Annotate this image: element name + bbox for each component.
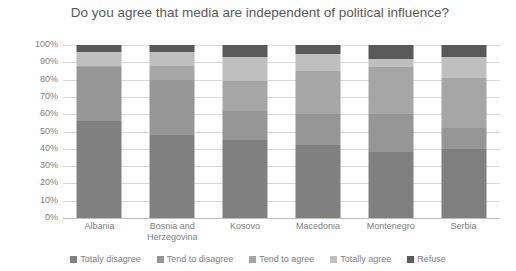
bar-stack[interactable] <box>441 45 486 218</box>
bar-segment[interactable] <box>223 45 268 57</box>
chart-legend: Totaly disagreeTend to disagreeTend to a… <box>0 252 516 266</box>
bar-segment[interactable] <box>368 59 413 68</box>
bar-stack[interactable] <box>150 45 195 218</box>
bar-segment[interactable] <box>223 111 268 140</box>
bar-segment[interactable] <box>150 66 195 80</box>
y-axis-tick-label: 60% <box>12 109 58 118</box>
bar-segment[interactable] <box>368 45 413 59</box>
y-axis-tick-label: 40% <box>12 144 58 153</box>
bar-stack[interactable] <box>368 45 413 218</box>
bar-segment[interactable] <box>295 54 340 71</box>
y-axis-tick-label: 20% <box>12 178 58 187</box>
x-axis: AlbaniaBosnia and HerzegovinaKosovoMaced… <box>63 221 500 249</box>
legend-item[interactable]: Refuse <box>407 254 446 264</box>
bar-segment[interactable] <box>150 135 195 218</box>
legend-item[interactable]: Tend to disagree <box>157 254 234 264</box>
x-axis-tick-label: Montenegro <box>354 221 427 232</box>
legend-swatch-icon <box>407 256 414 263</box>
bar-segment[interactable] <box>368 67 413 114</box>
legend-label: Totally agree <box>340 254 391 264</box>
bar-segment[interactable] <box>150 45 195 52</box>
chart-title: Do you agree that media are independent … <box>60 4 460 21</box>
y-axis-tick-label: 30% <box>12 161 58 170</box>
bar-segment[interactable] <box>441 128 486 149</box>
y-axis-tick-label: 90% <box>12 57 58 66</box>
stacked-bar-chart: Do you agree that media are independent … <box>0 0 516 271</box>
bar-segment[interactable] <box>150 52 195 66</box>
bar-segment[interactable] <box>77 121 122 218</box>
legend-swatch-icon <box>70 256 77 263</box>
bar-segment[interactable] <box>441 45 486 57</box>
y-axis: 100%90%80%70%60%50%40%30%20%10%0% <box>8 45 58 218</box>
bar-segment[interactable] <box>295 71 340 114</box>
x-axis-tick-label: Albania <box>63 221 136 232</box>
bar-segment[interactable] <box>77 66 122 68</box>
bar-stack[interactable] <box>295 45 340 218</box>
legend-swatch-icon <box>157 256 164 263</box>
bar-segment[interactable] <box>223 140 268 218</box>
bar-segment[interactable] <box>223 81 268 110</box>
bar-segment[interactable] <box>295 145 340 218</box>
bar-group <box>427 45 500 218</box>
bar-segment[interactable] <box>441 57 486 78</box>
x-axis-tick-label: Bosnia and Herzegovina <box>136 221 209 243</box>
bar-segment[interactable] <box>77 52 122 66</box>
bar-group <box>63 45 136 218</box>
bar-stack[interactable] <box>77 45 122 218</box>
legend-item[interactable]: Totally agree <box>330 254 391 264</box>
legend-label: Refuse <box>417 254 446 264</box>
legend-item[interactable]: Totaly disagree <box>70 254 141 264</box>
bar-segment[interactable] <box>368 152 413 218</box>
gridline <box>63 218 500 219</box>
y-axis-tick-label: 50% <box>12 127 58 136</box>
bar-segment[interactable] <box>441 149 486 218</box>
bar-segment[interactable] <box>441 78 486 128</box>
bar-stack[interactable] <box>223 45 268 218</box>
y-axis-tick-label: 80% <box>12 75 58 84</box>
plot-area <box>63 45 500 218</box>
bar-group <box>282 45 355 218</box>
legend-label: Tend to agree <box>259 254 314 264</box>
legend-label: Tend to disagree <box>167 254 234 264</box>
bar-segment[interactable] <box>223 57 268 81</box>
bar-segment[interactable] <box>368 114 413 152</box>
x-axis-tick-label: Kosovo <box>209 221 282 232</box>
bar-group <box>136 45 209 218</box>
bar-group <box>209 45 282 218</box>
y-axis-tick-label: 0% <box>12 213 58 222</box>
bar-segment[interactable] <box>150 80 195 135</box>
bar-segment[interactable] <box>295 114 340 145</box>
bar-segment[interactable] <box>77 67 122 121</box>
bar-segment[interactable] <box>77 45 122 52</box>
bar-group <box>354 45 427 218</box>
y-axis-tick-label: 70% <box>12 92 58 101</box>
y-axis-tick-label: 100% <box>12 40 58 49</box>
y-axis-tick-label: 10% <box>12 196 58 205</box>
legend-swatch-icon <box>330 256 337 263</box>
x-axis-tick-label: Serbia <box>427 221 500 232</box>
bar-segment[interactable] <box>295 45 340 54</box>
x-axis-tick-label: Macedonia <box>282 221 355 232</box>
legend-label: Totaly disagree <box>80 254 141 264</box>
legend-item[interactable]: Tend to agree <box>249 254 314 264</box>
legend-swatch-icon <box>249 256 256 263</box>
